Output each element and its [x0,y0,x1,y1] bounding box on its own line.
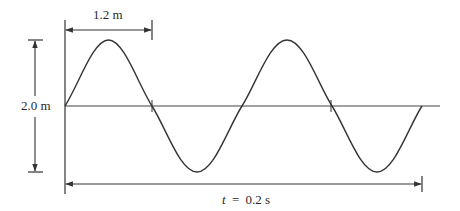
time-variable: t [222,192,226,207]
time-value: 0.2 s [245,192,270,207]
time-equals: = [232,192,239,207]
wavelength-label: 1.2 m [93,8,123,22]
amplitude-label: 2.0 m [21,99,51,113]
time-label: t = 0.2 s [222,193,270,207]
wave-diagram [0,0,460,211]
